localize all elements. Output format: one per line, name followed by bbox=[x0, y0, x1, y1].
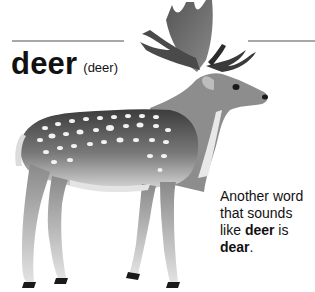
note-homophone: dear bbox=[220, 239, 250, 255]
note-text-after: . bbox=[250, 239, 254, 255]
antlers bbox=[140, 0, 256, 72]
headword: deer(deer) bbox=[11, 46, 118, 82]
note-word: deer bbox=[245, 222, 275, 238]
note-text-middle: is bbox=[274, 222, 288, 238]
hooves bbox=[22, 272, 180, 288]
entry-word: deer bbox=[11, 46, 77, 81]
homophone-note: Another word that sounds like deer is de… bbox=[220, 188, 315, 256]
entry-pronunciation: (deer) bbox=[83, 60, 118, 75]
